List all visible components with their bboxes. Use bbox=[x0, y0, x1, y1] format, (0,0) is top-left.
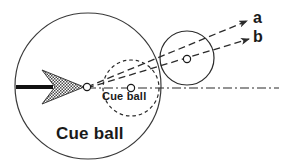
ray-a-line bbox=[87, 21, 247, 87]
ray-b-line bbox=[87, 39, 249, 88]
ray-b-label: b bbox=[253, 28, 263, 46]
object-ball-center-marker bbox=[183, 55, 190, 62]
diagram-canvas bbox=[0, 0, 283, 167]
cue-ball-diagram: Cue ball Cue ball a b bbox=[0, 0, 283, 167]
ray-a-label: a bbox=[253, 9, 262, 27]
cue-ball-ghost-label: Cue ball bbox=[102, 90, 146, 102]
cue-ball-large-label: Cue ball bbox=[56, 124, 124, 144]
cue-ball-large-center-marker bbox=[83, 83, 90, 90]
